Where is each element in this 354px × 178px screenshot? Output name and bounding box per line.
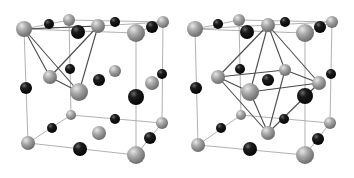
polyhedron-edge	[218, 77, 268, 133]
black-atom	[314, 21, 326, 33]
tetrahedral-site-cell	[16, 14, 169, 164]
gray-atom	[326, 16, 338, 28]
black-atom	[216, 123, 226, 133]
gray-atom	[236, 110, 246, 120]
gray-atom	[157, 16, 169, 28]
black-atom	[65, 64, 75, 74]
gray-atom	[261, 18, 275, 32]
black-atom	[213, 19, 223, 29]
black-atom	[279, 114, 289, 124]
gray-atom	[233, 14, 245, 26]
black-atom	[235, 64, 245, 74]
black-atom	[20, 82, 32, 94]
black-atom	[44, 19, 54, 29]
black-atom	[93, 74, 105, 86]
gray-atom	[211, 70, 225, 84]
gray-atom	[187, 21, 203, 37]
gray-atom	[92, 126, 106, 140]
black-atom	[190, 82, 202, 94]
gray-atom	[296, 24, 314, 42]
crystal-structure-figure	[0, 0, 354, 178]
gray-atom	[241, 83, 259, 101]
gray-atom	[21, 136, 35, 150]
gray-atom	[145, 76, 159, 90]
gray-atom	[70, 83, 88, 101]
octahedral-site-cell	[187, 14, 338, 164]
black-atom	[280, 17, 290, 27]
gray-atom	[261, 126, 275, 140]
black-atom	[240, 25, 254, 39]
polyhedron-edge	[268, 83, 319, 133]
gray-atom	[279, 64, 291, 76]
gray-atom	[156, 117, 168, 129]
gray-atom	[63, 14, 75, 26]
black-atom	[262, 74, 274, 86]
gray-atom	[312, 76, 326, 90]
black-atom	[312, 133, 324, 145]
gray-atom	[296, 146, 314, 164]
gray-atom	[43, 70, 57, 84]
unit-cell-diagrams	[0, 0, 354, 178]
gray-atom	[191, 138, 205, 152]
black-atom	[297, 88, 313, 104]
black-atom	[144, 132, 156, 144]
black-atom	[157, 69, 167, 79]
gray-atom	[16, 21, 32, 37]
gray-atom	[127, 24, 145, 42]
black-atom	[110, 17, 120, 27]
gray-atom	[324, 117, 336, 129]
polyhedron-edge	[218, 70, 285, 77]
gray-atom	[66, 110, 76, 120]
black-atom	[128, 89, 144, 105]
gray-atom	[109, 65, 121, 77]
black-atom	[47, 123, 57, 133]
gray-atom	[91, 19, 105, 33]
gray-atom	[127, 146, 145, 164]
black-atom	[110, 114, 120, 124]
black-atom	[73, 142, 87, 156]
black-atom	[243, 142, 257, 156]
black-atom	[71, 25, 85, 39]
black-atom	[146, 21, 158, 33]
polyhedron-edge	[24, 29, 50, 77]
black-atom	[326, 69, 336, 79]
